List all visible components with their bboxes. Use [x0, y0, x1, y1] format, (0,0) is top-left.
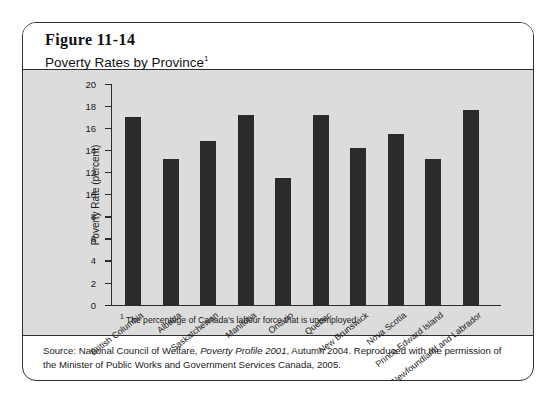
bar — [388, 134, 404, 305]
y-axis-line — [111, 84, 112, 306]
y-tick-label: 8 — [91, 211, 96, 222]
y-tick: 4 — [105, 260, 111, 261]
bar — [125, 117, 141, 305]
y-tick: 2 — [105, 283, 111, 284]
footnote-text: The percentage of Canada's labour force … — [126, 315, 359, 325]
bar — [425, 159, 441, 305]
x-axis-line — [111, 305, 501, 306]
y-tick-label: 2 — [91, 277, 96, 288]
y-tick-label: 14 — [85, 145, 96, 156]
source-publication-title: Poverty Profile 2001 — [200, 345, 286, 356]
figure-number: Figure 11-14 — [45, 30, 533, 49]
y-tick-label: 0 — [91, 299, 96, 310]
figure-container: Figure 11-14 Poverty Rates by Province1 … — [22, 22, 534, 381]
y-tick-label: 6 — [91, 233, 96, 244]
figure-title-band: Figure 11-14 Poverty Rates by Province1 — [23, 23, 533, 70]
y-tick: 12 — [105, 172, 111, 173]
bar — [163, 159, 179, 305]
y-tick: 0 — [105, 305, 111, 306]
y-tick: 6 — [105, 238, 111, 239]
y-tick-label: 4 — [91, 255, 96, 266]
y-tick: 14 — [105, 150, 111, 151]
footnote-marker: 1 — [120, 313, 124, 320]
chart-panel: Poverty Rate (percent) 02468101214161820… — [23, 70, 533, 336]
y-tick: 20 — [105, 84, 111, 85]
y-tick-label: 20 — [85, 79, 96, 90]
figure-title: Poverty Rates by Province1 — [45, 50, 533, 71]
figure-title-footnote-marker: 1 — [204, 54, 208, 63]
y-tick-label: 10 — [85, 189, 96, 200]
y-tick-label: 18 — [85, 101, 96, 112]
bar — [275, 178, 291, 305]
figure-title-text: Poverty Rates by Province — [45, 55, 204, 70]
bar — [313, 115, 329, 305]
y-tick-label: 16 — [85, 123, 96, 134]
bar — [238, 115, 254, 305]
bar — [463, 110, 479, 304]
y-tick: 10 — [105, 194, 111, 195]
plot-area: Poverty Rate (percent) 02468101214161820… — [111, 84, 495, 306]
y-tick: 8 — [105, 216, 111, 217]
y-tick: 18 — [105, 106, 111, 107]
y-tick-label: 12 — [85, 167, 96, 178]
figure-footnote: 1The percentage of Canada's labour force… — [120, 313, 359, 325]
y-tick: 16 — [105, 128, 111, 129]
bar — [350, 148, 366, 305]
bar — [200, 141, 216, 304]
